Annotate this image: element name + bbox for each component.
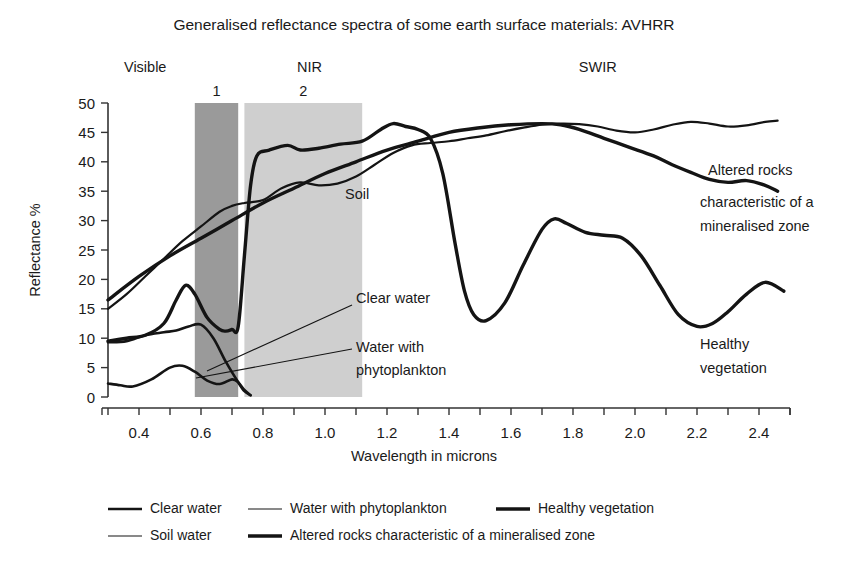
y-axis-title: Reflectance %: [27, 203, 43, 297]
chart-title: Generalised reflectance spectra of some …: [173, 16, 674, 33]
y-tick-label: 40: [78, 153, 95, 170]
altered-rocks-label-line3: mineralised zone: [700, 218, 810, 234]
y-tick-label: 35: [78, 183, 95, 200]
legend-item-altered-rocks[interactable]: Altered rocks characteristic of a minera…: [248, 527, 595, 543]
region-label-visible: Visible: [124, 59, 166, 75]
y-tick-label: 45: [78, 124, 95, 141]
x-tick-label: 1.8: [563, 424, 584, 441]
y-tick-label: 30: [78, 212, 95, 229]
x-tick-label: 1.6: [501, 424, 522, 441]
legend-label-clear-water: Clear water: [150, 500, 222, 516]
x-tick-label: 1.0: [315, 424, 336, 441]
band-1-label: 1: [212, 83, 220, 99]
region-label-swir: SWIR: [579, 59, 617, 75]
reflectance-spectra-chart: Generalised reflectance spectra of some …: [0, 0, 848, 569]
altered-rocks-label-line1: Altered rocks: [708, 162, 793, 178]
legend-label-water-phytoplankton: Water with phytoplankton: [290, 500, 447, 516]
water-phytoplankton-label-line1: Water with: [356, 339, 424, 355]
legend-label-altered-rocks: Altered rocks characteristic of a minera…: [290, 527, 595, 543]
avhrr-band-2: [244, 103, 362, 397]
healthy-vegetation-label-line2: vegetation: [700, 360, 767, 376]
x-tick-label: 2.2: [687, 424, 708, 441]
avhrr-band-1: [195, 103, 238, 397]
soil-label: Soil: [345, 186, 369, 202]
y-tick-label: 15: [78, 300, 95, 317]
x-tick-label: 2.0: [625, 424, 646, 441]
y-tick-label: 20: [78, 271, 95, 288]
legend-label-soil-water: Soil water: [150, 527, 212, 543]
y-tick-label: 5: [87, 359, 95, 376]
clear-water-label: Clear water: [356, 290, 430, 306]
x-tick-label: 0.6: [191, 424, 212, 441]
y-tick-label: 10: [78, 330, 95, 347]
legend-label-healthy-vegetation: Healthy vegetation: [538, 500, 654, 516]
figure-container: Generalised reflectance spectra of some …: [0, 0, 848, 569]
band-2-label: 2: [299, 83, 307, 99]
x-axis-title: Wavelength in microns: [351, 448, 497, 464]
y-tick-label: 0: [87, 389, 95, 406]
x-tick-label: 0.4: [129, 424, 150, 441]
water-phytoplankton-label-line2: phytoplankton: [356, 362, 446, 378]
x-tick-label: 0.8: [253, 424, 274, 441]
x-tick-label: 1.2: [377, 424, 398, 441]
y-tick-label: 50: [78, 95, 95, 112]
x-tick-label: 2.4: [749, 424, 770, 441]
healthy-vegetation-label-line1: Healthy: [700, 336, 750, 352]
x-tick-label: 1.4: [439, 424, 460, 441]
y-tick-label: 25: [78, 242, 95, 259]
region-label-nir: NIR: [297, 59, 322, 75]
altered-rocks-label-line2: characteristic of a: [700, 194, 815, 210]
